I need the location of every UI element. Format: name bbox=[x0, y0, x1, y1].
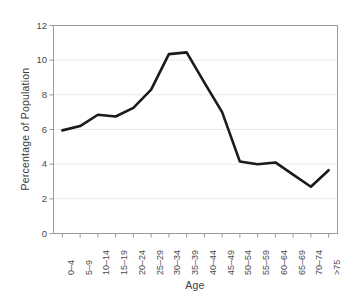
x-tick-label: 30–34 bbox=[173, 250, 182, 275]
gridlines bbox=[54, 60, 338, 199]
x-tick-label: 35–39 bbox=[191, 250, 200, 275]
x-tick-label: 70–74 bbox=[315, 250, 324, 275]
y-tick-label: 4 bbox=[25, 159, 47, 169]
y-tick-label: 10 bbox=[25, 55, 47, 65]
y-tick-label: 8 bbox=[25, 90, 47, 100]
y-tick-label: 12 bbox=[25, 21, 47, 31]
x-tick-label: 25–29 bbox=[156, 250, 165, 275]
x-tick-label: >75 bbox=[333, 260, 342, 275]
x-tick-label: 55–59 bbox=[262, 250, 271, 275]
chart-figure: Percentage of Population Age 024681012 0… bbox=[0, 0, 354, 301]
x-tick-label: 15–19 bbox=[120, 250, 129, 275]
x-tick-label: 20–24 bbox=[138, 250, 147, 275]
data-line-series bbox=[62, 52, 328, 186]
x-tick-label: 40–44 bbox=[209, 250, 218, 275]
x-tick-label: 50–54 bbox=[244, 250, 253, 275]
y-tick-label: 0 bbox=[25, 229, 47, 239]
x-tick-label: 5–9 bbox=[85, 260, 94, 275]
y-tick-label: 6 bbox=[25, 125, 47, 135]
x-tick-label: 10–14 bbox=[102, 250, 111, 275]
x-tick-label: 45–49 bbox=[227, 250, 236, 275]
x-tick-label: 0–4 bbox=[67, 260, 76, 275]
x-tick-label: 65–69 bbox=[298, 250, 307, 275]
y-tick-label: 2 bbox=[25, 194, 47, 204]
x-tick-label: 60–64 bbox=[280, 250, 289, 275]
